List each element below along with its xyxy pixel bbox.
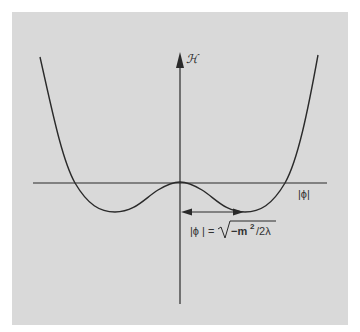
vev-formula-exponent: 2 (250, 222, 255, 231)
vev-arrow-right-icon (233, 209, 244, 216)
vev-arrow-left-icon (181, 209, 192, 216)
potential-curve (40, 55, 318, 212)
potential-diagram: ℋ |ϕ| |ϕ | = −m 2 /2λ (0, 0, 360, 332)
x-axis-label: |ϕ| (298, 188, 310, 200)
y-axis-label: ℋ (186, 52, 200, 66)
vev-formula-lhs: |ϕ | = (190, 225, 214, 237)
vev-formula-radicand: −m (231, 225, 247, 237)
y-axis-arrowhead-icon (176, 52, 184, 68)
vev-formula-rest: /2λ (256, 225, 271, 237)
